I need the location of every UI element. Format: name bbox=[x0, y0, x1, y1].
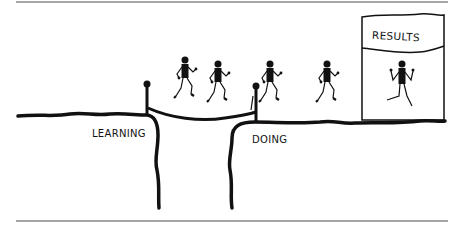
bridge-left-post bbox=[144, 81, 151, 117]
results-label: RESULTS bbox=[372, 29, 420, 43]
bridge-right-post bbox=[253, 83, 260, 123]
runner-figure-4 bbox=[316, 61, 339, 103]
runner-figure-5 bbox=[251, 96, 253, 110]
bridge bbox=[148, 108, 256, 120]
doing-label: DOING bbox=[252, 134, 287, 145]
runner-figure-2 bbox=[207, 61, 230, 103]
winner-figure bbox=[387, 61, 415, 107]
learning-label: LEARNING bbox=[92, 128, 146, 139]
learning-doing-results-diagram: LEARNING DOING RESULTS bbox=[0, 0, 460, 228]
runner-figure-3 bbox=[259, 61, 282, 103]
runner-figure-1 bbox=[174, 57, 197, 99]
